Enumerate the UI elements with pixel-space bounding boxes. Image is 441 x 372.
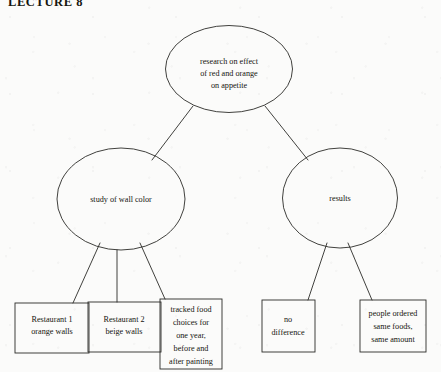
restaurant-1-line-1: Restaurant 1: [31, 315, 72, 324]
root-label-line-1: research on effect: [200, 57, 259, 66]
tree-diagram: research on effect of red and orange on …: [0, 0, 441, 372]
same-foods-line-1: people ordered: [369, 309, 418, 318]
node-restaurant-2[interactable]: Restaurant 2 beige walls: [88, 302, 161, 352]
results-label: results: [329, 194, 350, 203]
scanned-diagram-page: LECTURE 8 research on effect of red and …: [0, 0, 441, 372]
edge-root-to-study: [152, 106, 193, 160]
restaurant-2-line-1: Restaurant 2: [103, 315, 144, 324]
edge-results-to-same-foods: [348, 243, 372, 300]
root-label-line-2: of red and orange: [200, 69, 258, 78]
same-foods-line-3: same amount: [371, 335, 415, 344]
tracked-food-line-4: before and: [174, 344, 209, 353]
study-label: study of wall color: [90, 195, 152, 204]
tracked-food-line-2: choices for: [173, 318, 209, 327]
node-restaurant-1[interactable]: Restaurant 1 orange walls: [15, 303, 89, 353]
tracked-food-line-5: after painting: [169, 357, 213, 366]
root-label-line-3: on appetite: [211, 81, 248, 90]
no-difference-box: [262, 300, 315, 352]
edge-study-to-restaurant-1: [73, 243, 100, 303]
edge-root-to-results: [265, 106, 308, 160]
node-root[interactable]: research on effect of red and orange on …: [166, 26, 293, 113]
node-same-foods[interactable]: people ordered same foods, same amount: [360, 300, 426, 352]
edge-group: [73, 106, 372, 303]
same-foods-line-2: same foods,: [373, 322, 412, 331]
edge-results-to-no-difference: [308, 243, 327, 300]
restaurant-1-line-2: orange walls: [31, 327, 73, 336]
node-results[interactable]: results: [283, 148, 398, 248]
tracked-food-line-3: one year,: [176, 331, 206, 340]
no-difference-line-2: difference: [271, 328, 304, 337]
node-tracked-food[interactable]: tracked food choices for one year, befor…: [160, 299, 222, 369]
edge-study-to-tracked-food: [140, 243, 165, 299]
tracked-food-line-1: tracked food: [170, 305, 211, 314]
restaurant-2-line-2: beige walls: [105, 327, 142, 336]
node-no-difference[interactable]: no difference: [262, 300, 315, 352]
no-difference-line-1: no: [284, 315, 292, 324]
node-study-of-wall-color[interactable]: study of wall color: [57, 148, 185, 250]
